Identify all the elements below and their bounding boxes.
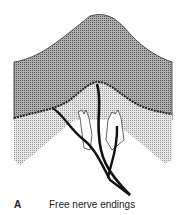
caption-text: Free nerve endings — [49, 199, 135, 210]
panel-letter: A — [14, 199, 49, 210]
figure-caption: A Free nerve endings — [14, 199, 135, 210]
skin-nerve-diagram — [0, 0, 183, 200]
